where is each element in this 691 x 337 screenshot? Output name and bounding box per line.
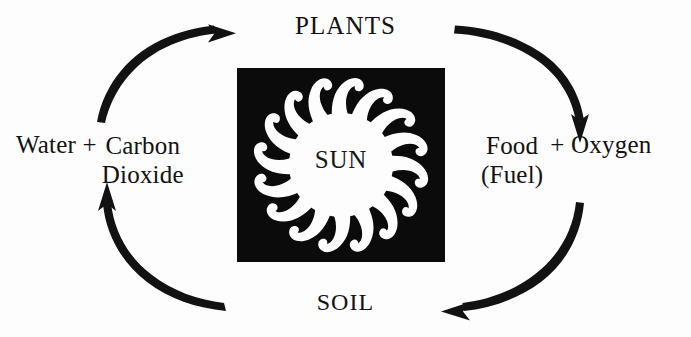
reactant-water-label: Water +: [16, 132, 102, 158]
product-food-line2: (Fuel): [481, 161, 543, 190]
product-food-stack: Food (Fuel): [481, 132, 543, 189]
product-oxygen-label: + Oxygen: [543, 132, 651, 158]
node-label-soil: SOIL: [0, 290, 691, 314]
reactant-carbon-dioxide-stack: Carbon Dioxide: [102, 132, 184, 189]
reactants-group: Water + Carbon Dioxide: [16, 132, 184, 189]
arrow-left-to-plants: [97, 24, 236, 123]
arrow-plants-to-right: [454, 26, 589, 144]
sun-panel: SUN: [237, 68, 445, 262]
reactant-carbon-dioxide-line2: Dioxide: [102, 161, 184, 190]
product-food-line1: Food: [486, 132, 538, 161]
node-label-sun: SUN: [237, 146, 445, 174]
node-label-plants: PLANTS: [0, 13, 691, 39]
diagram-canvas: PLANTS SOIL Water + Carbon Dioxide Food …: [0, 0, 691, 337]
reactant-carbon-dioxide-line1: Carbon: [105, 132, 180, 161]
products-group: Food (Fuel) + Oxygen: [481, 132, 651, 189]
